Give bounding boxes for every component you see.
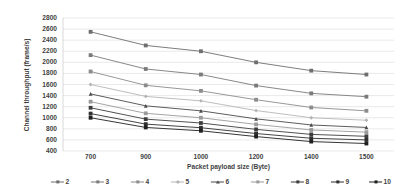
data-point-4-700	[89, 70, 93, 74]
line-chart: 2800260024002200200018001600140012001000…	[0, 0, 410, 195]
data-point-10-1000	[199, 129, 203, 133]
data-point-7-1400	[309, 128, 313, 132]
x-axis-tick: 1500	[359, 153, 374, 161]
data-point-8-900	[144, 117, 148, 121]
data-point-2-1000	[199, 49, 203, 53]
legend-label-5: 5	[185, 178, 189, 186]
legend-marker-icon-2	[51, 178, 64, 186]
legend-label-8: 8	[305, 178, 309, 186]
data-point-5-1000	[199, 99, 203, 103]
legend-marker-icon-10	[369, 178, 382, 186]
series-line-3	[91, 55, 367, 97]
data-point-5-1500	[365, 118, 369, 122]
legend-label-4: 4	[145, 178, 149, 186]
data-point-3-1500	[365, 95, 369, 99]
data-point-7-900	[144, 111, 148, 115]
data-point-8-1500	[365, 134, 369, 138]
legend-label-3: 3	[105, 178, 109, 186]
legend-marker-icon-8	[291, 178, 304, 186]
data-point-5-900	[144, 95, 148, 99]
legend-label-10: 10	[384, 178, 391, 186]
data-point-3-900	[144, 67, 148, 71]
legend-marker-icon-4	[131, 178, 144, 186]
data-point-4-1200	[254, 98, 258, 102]
data-point-3-1400	[309, 91, 313, 95]
data-point-10-1500	[365, 142, 369, 146]
data-point-3-1200	[254, 84, 258, 88]
legend-marker-icon-9	[331, 178, 344, 186]
data-point-8-700	[89, 106, 93, 110]
data-point-4-900	[144, 83, 148, 87]
legend-marker-icon-6	[211, 178, 224, 186]
data-point-7-700	[89, 100, 93, 104]
data-point-3-1000	[199, 73, 203, 77]
data-point-10-1200	[254, 135, 258, 139]
legend-label-7: 7	[265, 178, 269, 186]
legend-item-8[interactable]: 8	[291, 176, 309, 188]
data-point-2-900	[144, 44, 148, 48]
series-2	[89, 30, 369, 76]
data-point-7-1000	[199, 116, 203, 120]
legend-label-6: 6	[225, 178, 229, 186]
data-point-9-1500	[365, 138, 369, 142]
x-axis-tick: 700	[85, 153, 96, 161]
data-point-10-1400	[309, 140, 313, 144]
data-point-2-700	[89, 30, 93, 34]
series-4	[89, 70, 369, 113]
series-line-8	[91, 108, 367, 137]
series-line-7	[91, 102, 367, 132]
legend-item-10[interactable]: 10	[369, 176, 391, 188]
legend-marker-icon-7	[251, 178, 264, 186]
series-line-4	[91, 71, 367, 110]
series-3	[89, 53, 369, 98]
data-point-8-1400	[309, 132, 313, 136]
series-line-2	[91, 32, 367, 75]
data-point-2-1500	[365, 73, 369, 77]
legend-item-6[interactable]: 6	[211, 176, 229, 188]
legend-item-3[interactable]: 3	[91, 176, 109, 188]
data-point-9-1400	[309, 136, 313, 140]
series-6	[89, 92, 369, 129]
legend-label-2: 2	[65, 178, 69, 186]
data-point-10-900	[144, 126, 148, 130]
x-axis-tick: 900	[140, 153, 151, 161]
legend-item-5[interactable]: 5	[171, 176, 189, 188]
data-point-8-1000	[199, 121, 203, 125]
legend-label-9: 9	[345, 178, 349, 186]
legend-marker-icon-5	[171, 178, 184, 186]
data-point-5-1200	[254, 109, 258, 113]
legend-marker-icon-3	[91, 178, 104, 186]
legend-item-9[interactable]: 9	[331, 176, 349, 188]
data-point-10-700	[89, 116, 93, 120]
legend-item-4[interactable]: 4	[131, 176, 149, 188]
data-series-layer	[89, 30, 369, 145]
x-axis-tick: 1000	[194, 153, 209, 161]
data-point-2-1400	[309, 69, 313, 73]
data-point-7-1500	[365, 130, 369, 134]
x-axis-title: Packet payload size (Byte)	[63, 163, 394, 170]
data-point-3-700	[89, 53, 93, 57]
data-point-4-1400	[309, 106, 313, 110]
data-point-4-1500	[365, 109, 369, 113]
data-point-5-700	[89, 83, 93, 87]
legend-item-2[interactable]: 2	[51, 176, 69, 188]
x-axis-tick: 1200	[249, 153, 264, 161]
x-axis-tick: 1400	[304, 153, 319, 161]
data-point-9-700	[89, 112, 93, 116]
data-point-9-900	[144, 122, 148, 126]
legend-item-7[interactable]: 7	[251, 176, 269, 188]
data-point-2-1200	[254, 60, 258, 64]
data-point-5-1400	[309, 116, 313, 120]
data-point-7-1200	[254, 123, 258, 127]
chart-legend: 2345678910	[40, 176, 400, 188]
data-point-4-1000	[199, 89, 203, 93]
data-point-8-1200	[254, 127, 258, 131]
